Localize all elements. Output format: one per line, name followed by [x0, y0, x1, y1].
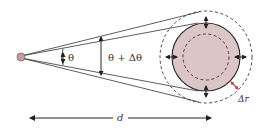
- distance-label: d: [117, 112, 123, 123]
- theta-label: θ: [68, 52, 74, 63]
- delta-r-arrow: [231, 82, 238, 89]
- theta-plus-delta-label: θ + Δθ: [108, 52, 142, 63]
- point-source: [17, 53, 25, 61]
- object-circle: [172, 23, 240, 91]
- delta-r-label: Δr: [237, 94, 249, 104]
- angular-size-diagram: θ θ + Δθ Δr d: [0, 0, 267, 131]
